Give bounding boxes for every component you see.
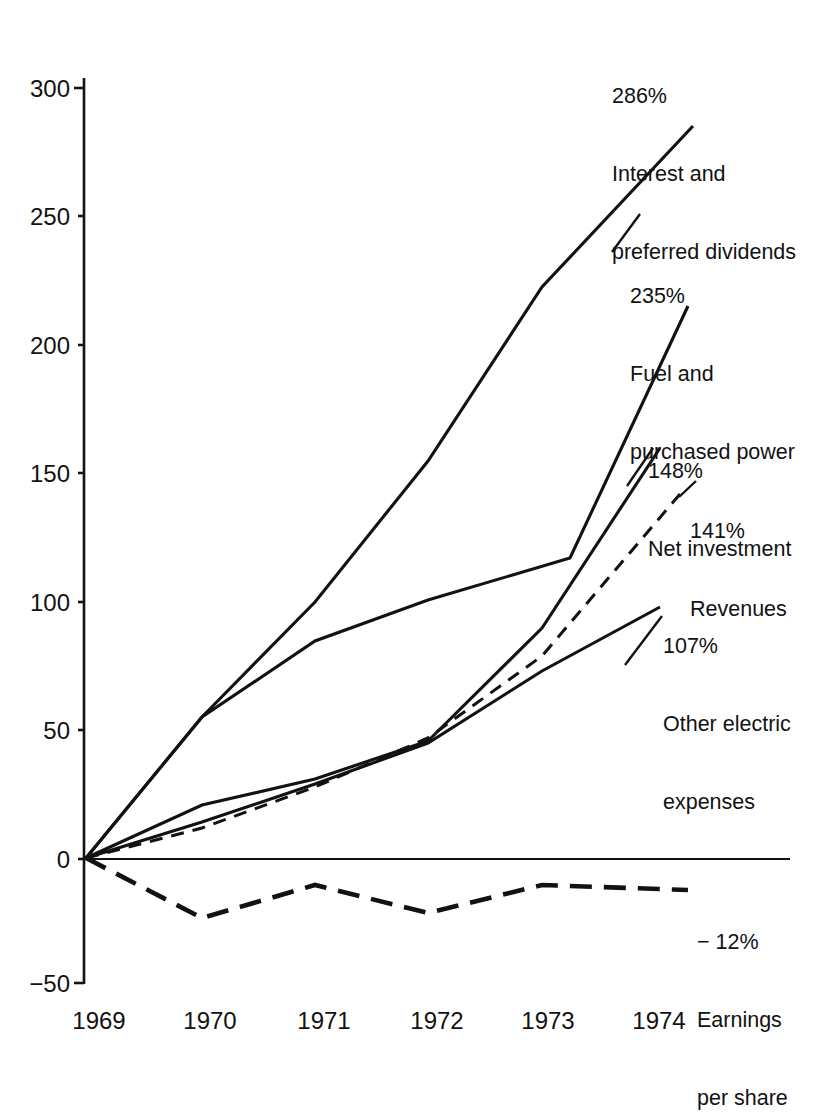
y-axis-label-minus-50: −50: [29, 970, 70, 997]
x-axis-label-1972: 1972: [410, 1007, 463, 1034]
x-axis-label-1970: 1970: [183, 1007, 236, 1034]
annotation-pct-interest: 286%: [612, 83, 796, 109]
annotation-line2-fuel: Fuel and: [630, 361, 795, 387]
series-annotation-earnings-per-share: − 12% Earnings per share: [697, 877, 788, 1114]
annotation-line2-eps: Earnings: [697, 1007, 788, 1033]
x-axis-label-1973: 1973: [521, 1007, 574, 1034]
x-axis-label-1971: 1971: [297, 1007, 350, 1034]
annotation-line2-other-expenses: Other electric: [663, 711, 791, 737]
annotation-line3-other-expenses: expenses: [663, 789, 791, 815]
x-axis-label-1974: 1974: [632, 1007, 685, 1034]
annotation-pct-revenues: 141%: [690, 518, 787, 544]
series-annotation-other-electric-expenses: 107% Other electric expenses: [663, 581, 791, 867]
series-line-fuel-and-purchased-power: [86, 306, 688, 858]
y-axis-label-50: 50: [43, 717, 70, 744]
x-tick-labels: 1969 1970 1971 1972 1973 1974: [72, 1007, 685, 1034]
y-axis-label-300: 300: [30, 75, 70, 102]
y-axis-label-150: 150: [30, 460, 70, 487]
y-axis-label-200: 200: [30, 332, 70, 359]
y-tick-marks: [74, 88, 84, 983]
series-line-earnings-per-share: [86, 858, 688, 918]
series-line-revenues: [86, 494, 680, 858]
y-tick-labels: 300 250 200 150 100 50 0 −50: [29, 75, 70, 997]
y-axis-label-250: 250: [30, 203, 70, 230]
annotation-pct-eps: − 12%: [697, 929, 788, 955]
annotation-line3-eps: per share: [697, 1085, 788, 1111]
y-axis-label-100: 100: [30, 589, 70, 616]
annotation-line2-interest: Interest and: [612, 161, 796, 187]
annotation-pct-other-expenses: 107%: [663, 633, 791, 659]
y-axis-label-0: 0: [57, 846, 70, 873]
x-axis-label-1969: 1969: [72, 1007, 125, 1034]
annotation-pct-fuel: 235%: [630, 283, 795, 309]
